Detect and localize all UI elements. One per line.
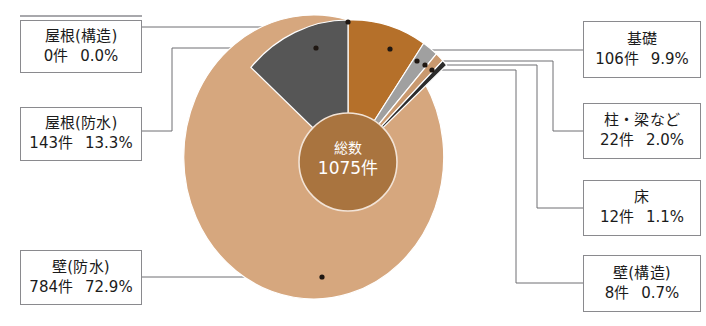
callout-percent: 72.9%: [85, 278, 133, 296]
callout-count: 22件: [600, 131, 634, 149]
callout-roof-structure[interactable]: 屋根(構造) 0件0.0%: [20, 20, 142, 73]
callout-percent: 2.0%: [646, 131, 684, 149]
callout-percent: 0.0%: [80, 47, 118, 65]
callout-count: 106件: [595, 50, 639, 68]
callout-title: 基礎: [627, 31, 657, 49]
leader-floor: [425, 65, 583, 208]
callout-title: 屋根(防水): [45, 115, 118, 133]
callout-value: 143件13.3%: [29, 135, 132, 153]
dot-roof-waterproof: [313, 45, 318, 50]
callout-wall-waterproof[interactable]: 壁(防水) 784件72.9%: [20, 250, 142, 305]
callout-count: 143件: [29, 134, 73, 152]
leader-column-beam: [417, 61, 583, 131]
callout-title: 屋根(構造): [45, 28, 118, 46]
callout-count: 784件: [29, 278, 73, 296]
callout-count: 8件: [605, 284, 630, 302]
callout-count: 12件: [600, 208, 634, 226]
callout-percent: 9.9%: [651, 50, 689, 68]
callout-value: 784件72.9%: [29, 279, 132, 297]
dot-wall-waterproof: [319, 274, 324, 279]
callout-value: 12件1.1%: [600, 209, 684, 227]
callout-column-beam[interactable]: 柱・梁など 22件2.0%: [583, 103, 701, 159]
callout-roof-waterproof[interactable]: 屋根(防水) 143件13.3%: [20, 107, 142, 161]
callout-value: 8件0.7%: [605, 285, 680, 303]
dot-floor: [422, 62, 427, 67]
leader-wall-structure: [432, 70, 583, 283]
callout-floor[interactable]: 床 12件1.1%: [583, 180, 701, 236]
dot-foundation: [387, 46, 392, 51]
callout-value: 106件9.9%: [595, 51, 689, 69]
dot-wall-structure: [429, 67, 434, 72]
callout-title: 壁(防水): [52, 259, 110, 277]
callout-percent: 1.1%: [646, 208, 684, 226]
callout-wall-structure[interactable]: 壁(構造) 8件0.7%: [583, 255, 701, 312]
callout-value: 22件2.0%: [600, 132, 684, 150]
callout-percent: 13.3%: [85, 134, 133, 152]
callout-title: 壁(構造): [613, 265, 671, 283]
callout-percent: 0.7%: [641, 284, 679, 302]
donut-hole: [299, 113, 397, 211]
dot-roof-structure: [345, 19, 350, 24]
callout-foundation[interactable]: 基礎 106件9.9%: [583, 21, 701, 78]
callout-count: 0件: [44, 47, 69, 65]
callout-value: 0件0.0%: [44, 48, 119, 66]
callout-title: 柱・梁など: [604, 112, 680, 130]
dot-column-beam: [414, 58, 419, 63]
callout-title: 床: [634, 189, 649, 207]
pie-chart-figure: 総数 1075件 屋根(構造) 0件0.0% 屋根(防水) 143件13.3% …: [0, 0, 706, 326]
